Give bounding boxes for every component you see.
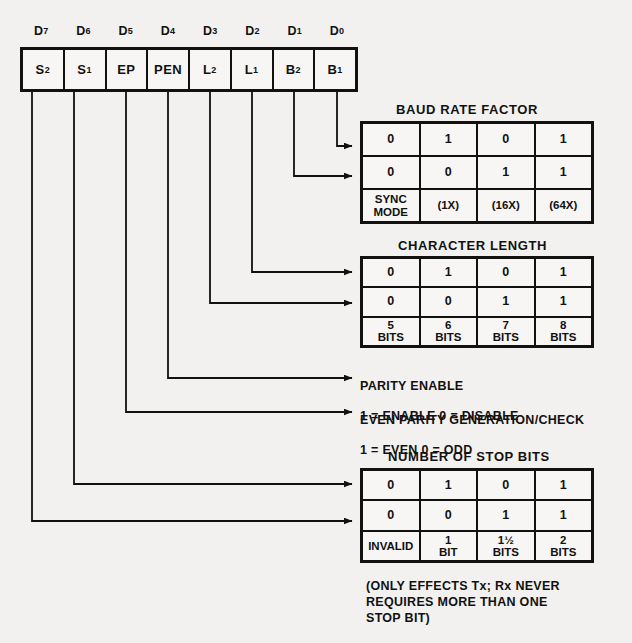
table-row: SYNC MODE (1X) (16X) (64X) bbox=[363, 190, 591, 221]
table-cell: 1 BIT bbox=[421, 532, 479, 560]
table-row: 5 BITS 6 BITS 7 BITS 8 BITS bbox=[363, 318, 591, 345]
table-row: 0 0 1 1 bbox=[363, 501, 591, 531]
bit-label-d5: D5 bbox=[105, 20, 147, 42]
bit-label-d0-base: D bbox=[330, 24, 339, 38]
register-cell-l1-base: L bbox=[245, 62, 253, 77]
table-cell: 0 bbox=[421, 157, 479, 188]
bit-label-d1: D1 bbox=[274, 20, 316, 42]
table-cell: 1 bbox=[478, 288, 536, 315]
bit-label-d4-base: D bbox=[161, 24, 170, 38]
bit-label-d4: D4 bbox=[147, 20, 189, 42]
table-cell: 1½ BITS bbox=[478, 532, 536, 560]
table-cell: 1 bbox=[536, 157, 592, 188]
bit-label-d1-base: D bbox=[288, 24, 297, 38]
register-cell-s2-base: S bbox=[36, 62, 45, 77]
register-cell-ep-base: EP bbox=[117, 62, 135, 77]
diagram-canvas: D7 D6 D5 D4 D3 D2 D1 D0 S2 S1 EP PEN L2 … bbox=[0, 0, 632, 643]
table-cell: 0 bbox=[363, 288, 421, 315]
table-cell: 0 bbox=[363, 259, 421, 286]
table-cell: 0 bbox=[421, 288, 479, 315]
table-cell: INVALID bbox=[363, 532, 421, 560]
table-cell: 0 bbox=[421, 501, 479, 529]
table-cell: 1 bbox=[421, 259, 479, 286]
table-row: 0 0 1 1 bbox=[363, 288, 591, 317]
register-cell-s1: S1 bbox=[65, 50, 107, 89]
table-row: 0 1 0 1 bbox=[363, 124, 591, 157]
table-cell: 0 bbox=[363, 157, 421, 188]
table-cell: 1 bbox=[536, 501, 592, 529]
table-cell: (1X) bbox=[421, 190, 479, 221]
number-of-stop-bits-title: NUMBER OF STOP BITS bbox=[388, 449, 550, 464]
table-cell: (64X) bbox=[536, 190, 592, 221]
bit-label-d0: D0 bbox=[316, 20, 358, 42]
character-length-title: CHARACTER LENGTH bbox=[398, 238, 547, 253]
table-cell: 0 bbox=[363, 471, 421, 499]
bit-label-d7-base: D bbox=[34, 24, 43, 38]
parity-enable-line1: PARITY ENABLE bbox=[360, 379, 519, 394]
table-cell: 0 bbox=[363, 124, 421, 155]
table-cell: 1 bbox=[421, 124, 479, 155]
register-cell-b1: B1 bbox=[315, 50, 355, 89]
table-cell: 1 bbox=[478, 157, 536, 188]
bit-label-d3: D3 bbox=[189, 20, 231, 42]
number-of-stop-bits-table: 0 1 0 1 0 0 1 1 INVALID 1 BIT 1½ BITS 2 … bbox=[360, 468, 594, 563]
table-row: INVALID 1 BIT 1½ BITS 2 BITS bbox=[363, 532, 591, 560]
register-cell-b2-base: B bbox=[286, 62, 296, 77]
table-row: 0 0 1 1 bbox=[363, 157, 591, 190]
table-cell: (16X) bbox=[478, 190, 536, 221]
register-cell-l2: L2 bbox=[190, 50, 232, 89]
baud-rate-factor-title: BAUD RATE FACTOR bbox=[396, 102, 538, 117]
bit-label-d3-base: D bbox=[203, 24, 212, 38]
register-cell-pen: PEN bbox=[148, 50, 190, 89]
bit-label-d6-base: D bbox=[76, 24, 85, 38]
even-parity-line1: EVEN PARITY GENERATION/CHECK bbox=[360, 413, 584, 428]
register-cell-l2-base: L bbox=[203, 62, 211, 77]
table-row: 0 1 0 1 bbox=[363, 471, 591, 501]
table-cell: 0 bbox=[478, 124, 536, 155]
table-cell: 0 bbox=[478, 471, 536, 499]
table-cell: 1 bbox=[536, 471, 592, 499]
character-length-table: 0 1 0 1 0 0 1 1 5 BITS 6 BITS 7 BITS 8 B… bbox=[360, 256, 594, 348]
register-cell-b1-base: B bbox=[327, 62, 337, 77]
table-cell: 0 bbox=[363, 501, 421, 529]
register-cell-l1: L1 bbox=[232, 50, 274, 89]
table-cell: 8 BITS bbox=[536, 318, 592, 345]
register-cell-b2: B2 bbox=[274, 50, 316, 89]
register-cell-ep: EP bbox=[107, 50, 149, 89]
table-cell: 0 bbox=[478, 259, 536, 286]
table-cell: SYNC MODE bbox=[363, 190, 421, 221]
table-cell: 1 bbox=[536, 124, 592, 155]
table-cell: 1 bbox=[421, 471, 479, 499]
table-cell: 6 BITS bbox=[421, 318, 479, 345]
table-cell: 5 BITS bbox=[363, 318, 421, 345]
table-cell: 1 bbox=[536, 259, 592, 286]
table-cell: 7 BITS bbox=[478, 318, 536, 345]
bit-label-d6: D6 bbox=[62, 20, 104, 42]
table-row: 0 1 0 1 bbox=[363, 259, 591, 288]
baud-rate-factor-table: 0 1 0 1 0 0 1 1 SYNC MODE (1X) (16X) (64… bbox=[360, 121, 594, 224]
bit-label-d5-base: D bbox=[119, 24, 128, 38]
register-cell-pen-base: PEN bbox=[154, 62, 182, 77]
stop-bits-footnote: (ONLY EFFECTS Tx; Rx NEVER REQUIRES MORE… bbox=[366, 578, 560, 626]
table-cell: 1 bbox=[536, 288, 592, 315]
table-cell: 1 bbox=[478, 501, 536, 529]
bit-label-row: D7 D6 D5 D4 D3 D2 D1 D0 bbox=[20, 20, 358, 42]
mode-instruction-register: S2 S1 EP PEN L2 L1 B2 B1 bbox=[20, 47, 358, 92]
bit-label-d2: D2 bbox=[231, 20, 273, 42]
table-cell: 2 BITS bbox=[536, 532, 592, 560]
register-cell-s2: S2 bbox=[23, 50, 65, 89]
bit-label-d7: D7 bbox=[20, 20, 62, 42]
register-cell-s1-base: S bbox=[77, 62, 86, 77]
bit-label-d2-base: D bbox=[245, 24, 254, 38]
